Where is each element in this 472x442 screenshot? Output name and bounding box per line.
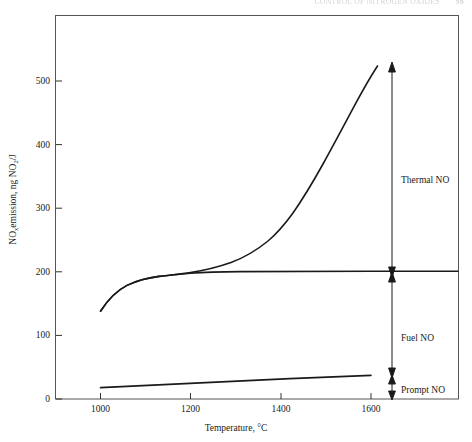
y-axis-title-sub-x: x <box>11 228 18 231</box>
y-axis-title: NOxemission, ng NO2/J <box>8 154 19 245</box>
annotation-label-fuel-no: Fuel NO <box>401 333 434 343</box>
x-tick-label-1200: 1200 <box>181 404 200 414</box>
chart-canvas <box>0 0 472 442</box>
nox-emission-chart: 0 100 200 300 400 500 1000 1200 1400 160… <box>0 0 472 442</box>
y-axis-title-mid: emission, ng NO <box>8 164 18 228</box>
y-tick-label-0: 0 <box>22 394 50 404</box>
y-axis-title-post: /J <box>8 154 18 160</box>
annotation-label-prompt-no: Prompt NO <box>401 385 445 395</box>
y-tick-label-400: 400 <box>22 140 50 150</box>
x-tick-label-1000: 1000 <box>91 404 110 414</box>
figure-page: CONTROL OF NITROGEN OXIDES 98 <box>0 0 472 442</box>
y-tick-label-200: 200 <box>22 267 50 277</box>
y-tick-label-100: 100 <box>22 330 50 340</box>
y-tick-label-300: 300 <box>22 203 50 213</box>
y-axis-title-pre: NO <box>8 231 18 245</box>
x-axis-title: Temperature, °C <box>0 423 472 433</box>
plot-frame <box>56 16 459 400</box>
x-tick-label-1400: 1400 <box>272 404 291 414</box>
x-tick-label-1600: 1600 <box>362 404 381 414</box>
y-axis-title-sub-2: 2 <box>11 161 18 164</box>
y-tick-label-500: 500 <box>22 76 50 86</box>
y-axis-title-container: NOxemission, ng NO2/J <box>0 0 26 399</box>
annotation-label-thermal-no: Thermal NO <box>401 175 449 185</box>
